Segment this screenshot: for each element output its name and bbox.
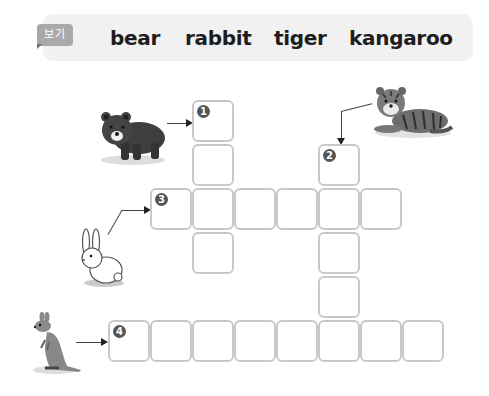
bear-arrow-line [167, 123, 187, 124]
crossword-cell-3-3[interactable] [234, 188, 276, 230]
clue-number-badge: 3 [155, 193, 168, 206]
clue-number-badge: 1 [197, 105, 210, 118]
crossword-cell-3-5[interactable] [318, 188, 360, 230]
clue-number-badge: 4 [113, 325, 126, 338]
tag-tail-decoration [37, 44, 42, 49]
clue-number-badge: 2 [323, 149, 336, 162]
crossword-cell-4-4[interactable] [234, 320, 276, 362]
tiger-icon [368, 85, 453, 140]
word-bank-tag: 보기 [37, 24, 73, 46]
crossword-cell-1-4[interactable] [192, 232, 234, 274]
crossword-cell-4-7[interactable] [360, 320, 402, 362]
word-bank-rabbit: rabbit [185, 26, 252, 50]
tiger-arrow-line-vertical [341, 111, 342, 139]
crossword-cell-2-1[interactable]: 2 [318, 144, 360, 186]
crossword-cell-2-3[interactable] [318, 232, 360, 274]
crossword-cell-3-6[interactable] [360, 188, 402, 230]
crossword-cell-2-4[interactable] [318, 276, 360, 318]
bear-icon [95, 108, 170, 166]
crossword-cell-1-2[interactable] [192, 144, 234, 186]
word-bank-tiger: tiger [274, 26, 327, 50]
crossword-cell-3-2[interactable] [192, 188, 234, 230]
crossword-cell-4-5[interactable] [276, 320, 318, 362]
crossword-cell-4-6[interactable] [318, 320, 360, 362]
crossword-cell-1-1[interactable]: 1 [192, 100, 234, 142]
word-bank-kangaroo: kangaroo [349, 26, 453, 50]
kangaroo-icon [25, 312, 85, 374]
word-bank-bear: bear [110, 26, 160, 50]
crossword-cell-4-8[interactable] [402, 320, 444, 362]
crossword-cell-4-3[interactable] [192, 320, 234, 362]
crossword-cell-4-1[interactable]: 4 [108, 320, 150, 362]
crossword-cell-3-1[interactable]: 3 [150, 188, 192, 230]
rabbit-icon [72, 228, 132, 288]
crossword-cell-4-2[interactable] [150, 320, 192, 362]
kangaroo-arrowhead-icon [101, 338, 108, 346]
crossword-cell-3-4[interactable] [276, 188, 318, 230]
rabbit-arrow-line-horizontal [121, 210, 145, 211]
kangaroo-arrow-line [76, 342, 101, 343]
